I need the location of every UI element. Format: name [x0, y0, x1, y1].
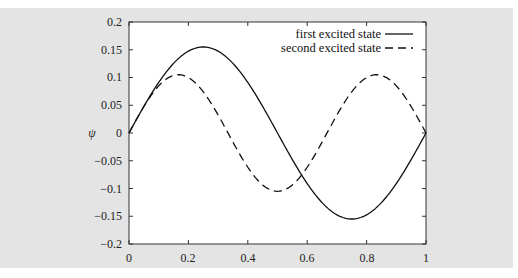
y-axis-label: ψ: [88, 126, 96, 140]
x-tick-label: 0.8: [360, 251, 375, 265]
y-tick-label: −0.1: [100, 182, 122, 196]
y-tick-label: 0.1: [107, 70, 122, 84]
y-tick-label: −0.15: [94, 209, 122, 223]
y-tick-label: 0: [116, 126, 122, 140]
y-tick-label: 0.2: [107, 15, 122, 29]
x-axis-tick-labels: 0 0.2 0.4 0.6 0.8 1: [126, 251, 429, 265]
x-tick-label: 0.4: [241, 251, 256, 265]
legend-label-second: second excited state: [281, 41, 381, 55]
x-tick-label: 0.6: [300, 251, 315, 265]
y-tick-label: −0.2: [100, 237, 122, 251]
y-tick-label: −0.05: [94, 154, 122, 168]
x-tick-label: 1: [423, 251, 429, 265]
y-tick-label: 0.15: [101, 43, 122, 57]
y-tick-label: 0.05: [101, 98, 122, 112]
x-tick-label: 0: [126, 251, 132, 265]
chart-svg: 0.2 0.15 0.1 0.05 0 −0.05 −0.1 −0.15 −0.…: [0, 0, 518, 278]
legend-label-first: first excited state: [296, 27, 382, 41]
x-tick-label: 0.2: [181, 251, 196, 265]
y-axis-tick-labels: 0.2 0.15 0.1 0.05 0 −0.05 −0.1 −0.15 −0.…: [94, 15, 122, 251]
